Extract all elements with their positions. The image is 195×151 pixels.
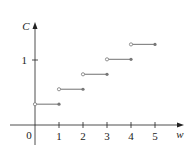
- x-tick-label: 3: [104, 130, 110, 142]
- x-axis-arrow-icon: [177, 123, 184, 128]
- closed-endpoint-icon: [105, 73, 108, 76]
- x-axis-label: w: [176, 128, 184, 140]
- y-tick-label: 1: [22, 54, 28, 66]
- open-endpoint-icon: [81, 73, 84, 76]
- x-tick-label: 1: [56, 130, 62, 142]
- y-axis-arrow-icon: [33, 22, 38, 29]
- y-axis-label: C: [22, 20, 30, 32]
- open-endpoint-icon: [129, 43, 132, 46]
- origin-label: 0: [26, 129, 32, 141]
- open-endpoint-icon: [33, 103, 36, 106]
- closed-endpoint-icon: [81, 88, 84, 91]
- step-segments: [33, 43, 156, 106]
- open-endpoint-icon: [105, 58, 108, 61]
- closed-endpoint-icon: [57, 103, 60, 106]
- step-function-chart: 1234510wC: [0, 0, 195, 151]
- x-tick-label: 5: [152, 130, 158, 142]
- closed-endpoint-icon: [129, 58, 132, 61]
- open-endpoint-icon: [57, 88, 60, 91]
- x-tick-label: 4: [128, 130, 134, 142]
- closed-endpoint-icon: [153, 43, 156, 46]
- x-tick-label: 2: [80, 130, 86, 142]
- axes: [10, 22, 184, 145]
- axis-labels: 1234510wC: [22, 20, 185, 142]
